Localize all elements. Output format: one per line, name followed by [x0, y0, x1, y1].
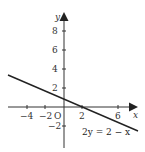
- x-tick-label: 2: [79, 111, 85, 121]
- y-tick-label: −2: [48, 121, 61, 131]
- x-tick-label: 6: [115, 111, 121, 121]
- x-tick-label: −2: [39, 111, 52, 121]
- y-tick-label: 4: [52, 64, 58, 74]
- graph: y x 8 6 4 2 −2 −4 −2 O 2 6 2y = 2 − x: [0, 0, 145, 152]
- y-axis-label: y: [54, 12, 61, 22]
- equation-label: 2y = 2 − x: [82, 127, 130, 137]
- x-axis-label: x: [133, 110, 138, 120]
- y-tick-label: 2: [52, 83, 58, 93]
- x-tick-label: −4: [20, 111, 34, 121]
- plot-line: [8, 75, 138, 131]
- y-axis-arrow-icon: [60, 12, 69, 21]
- origin-label: O: [54, 111, 61, 121]
- y-tick-label: 8: [52, 26, 58, 36]
- y-tick-label: 6: [52, 45, 58, 55]
